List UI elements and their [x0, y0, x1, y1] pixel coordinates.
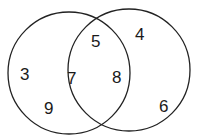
venn-diagram: 3 9 5 7 8 4 6 — [0, 0, 200, 140]
intersection-value-8: 8 — [112, 68, 121, 87]
intersection-value-7: 7 — [67, 69, 76, 88]
right-set-circle — [68, 9, 190, 131]
intersection-value-5: 5 — [91, 32, 100, 51]
right-only-value-6: 6 — [159, 97, 168, 116]
left-only-value-9: 9 — [44, 99, 53, 118]
left-only-value-3: 3 — [20, 65, 29, 84]
right-only-value-4: 4 — [135, 25, 144, 44]
